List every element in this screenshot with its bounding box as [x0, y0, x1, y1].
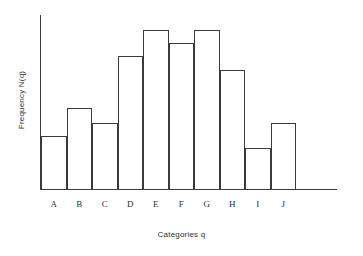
x-tick-label-f: F: [169, 198, 195, 210]
x-axis-line: [40, 189, 337, 190]
bar-series: [41, 15, 296, 189]
y-axis-title-container: Frequency N(q): [14, 40, 28, 160]
bar-e: [143, 30, 169, 189]
x-tick-label-h: H: [220, 198, 246, 210]
x-tick-label-j: J: [271, 198, 297, 210]
x-axis-title: Categories q: [0, 230, 363, 239]
bar-g: [194, 30, 220, 189]
x-tick-label-e: E: [143, 198, 169, 210]
histogram-figure: ABCDEFGHIJ Frequency N(q) Categories q: [0, 0, 363, 256]
y-axis-title: Frequency N(q): [17, 71, 26, 129]
bar-h: [220, 70, 246, 189]
x-axis-tick-labels: ABCDEFGHIJ: [41, 198, 296, 212]
x-tick-label-d: D: [118, 198, 144, 210]
x-tick-label-i: I: [245, 198, 271, 210]
bar-f: [169, 43, 195, 189]
bar-b: [67, 108, 93, 189]
bar-d: [118, 56, 144, 189]
x-tick-label-b: B: [67, 198, 93, 210]
x-tick-label-a: A: [41, 198, 67, 210]
x-tick-label-c: C: [92, 198, 118, 210]
x-tick-label-g: G: [194, 198, 220, 210]
bar-i: [245, 148, 271, 189]
bar-j: [271, 123, 297, 189]
bar-c: [92, 123, 118, 189]
bar-a: [41, 136, 67, 189]
